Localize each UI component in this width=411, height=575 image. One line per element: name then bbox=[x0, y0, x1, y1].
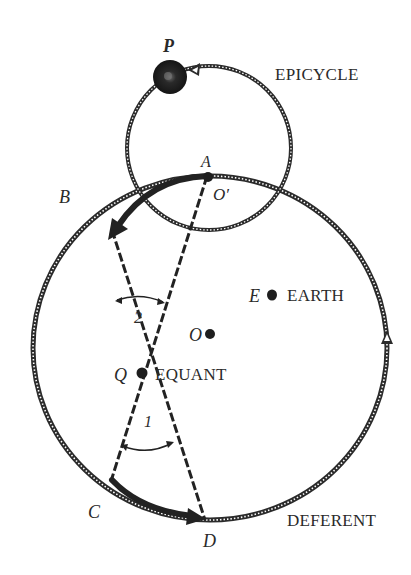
label-earth: EARTH bbox=[287, 287, 344, 304]
label-point-b: B bbox=[59, 188, 70, 206]
epicycle-arrow-icon bbox=[188, 63, 200, 76]
label-angle-2: 2 bbox=[134, 310, 142, 326]
point-a-dot bbox=[203, 172, 213, 182]
equant-dot bbox=[137, 368, 148, 379]
deferent-arrow-icon bbox=[381, 330, 393, 344]
label-deferent: DEFERENT bbox=[287, 512, 376, 529]
label-point-a: A bbox=[201, 154, 211, 170]
label-earth-letter: E bbox=[249, 287, 260, 305]
earth-dot bbox=[267, 290, 277, 301]
arc-c-to-d bbox=[112, 480, 206, 525]
epicycle-circle bbox=[127, 66, 291, 230]
ptolemaic-diagram bbox=[0, 0, 411, 575]
label-point-c: C bbox=[88, 503, 100, 521]
label-point-d: D bbox=[203, 532, 216, 550]
arc-a-to-b bbox=[108, 176, 207, 240]
angle-1-arc bbox=[121, 441, 174, 451]
angle-2-arc bbox=[115, 296, 165, 305]
label-equant: EQUANT bbox=[155, 366, 227, 383]
deferent-circle bbox=[33, 176, 387, 520]
label-equant-letter: Q bbox=[114, 366, 127, 384]
label-epicycle: EPICYCLE bbox=[275, 66, 359, 83]
label-center-o: O bbox=[189, 326, 202, 344]
center-dot bbox=[205, 329, 215, 339]
planet-icon bbox=[153, 60, 187, 94]
label-planet-p: P bbox=[163, 37, 174, 55]
label-epicycle-center: O′ bbox=[213, 186, 229, 203]
label-angle-1: 1 bbox=[144, 414, 152, 430]
